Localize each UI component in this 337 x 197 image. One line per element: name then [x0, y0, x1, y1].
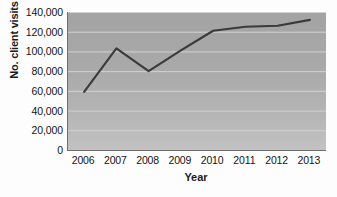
y-axis-tick-labels: 020,00040,00060,00080,000100,000120,0001… [0, 12, 63, 150]
y-axis-tick-label: 100,000 [0, 45, 63, 57]
y-axis-tick-label: 140,000 [0, 6, 63, 18]
x-axis-tick-label: 2013 [286, 154, 332, 166]
plot-svg [68, 12, 326, 150]
gridlines [68, 13, 326, 131]
y-axis-tick-label: 80,000 [0, 65, 63, 77]
y-axis-tick-label: 40,000 [0, 105, 63, 117]
x-axis-title: Year [67, 171, 325, 183]
line-chart: No. client visits 020,00040,00060,00080,… [0, 0, 337, 197]
y-axis-tick-label: 60,000 [0, 85, 63, 97]
y-axis-tick-label: 0 [0, 144, 63, 156]
y-axis-tick-label: 20,000 [0, 124, 63, 136]
y-axis-tick-label: 120,000 [0, 26, 63, 38]
data-series-line [84, 20, 310, 92]
x-axis-tick-labels: 20062007200820092010201120122013 [67, 154, 325, 168]
plot-area [67, 12, 326, 151]
